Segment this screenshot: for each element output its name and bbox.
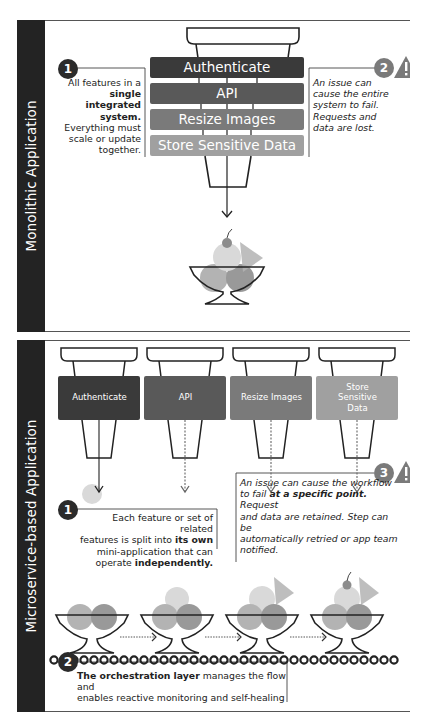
service-authenticate: Authenticate <box>59 376 140 419</box>
conveyor-roller <box>280 656 287 663</box>
conveyor-roller <box>300 656 307 663</box>
scoop-1 <box>237 604 263 630</box>
scoop-2 <box>261 604 287 630</box>
conveyor-roller <box>120 656 127 663</box>
layer-authenticate: Authenticate <box>150 59 304 75</box>
conveyor-roller <box>210 656 217 663</box>
cherry <box>343 581 352 590</box>
conveyor-roller <box>320 656 327 663</box>
funnel-rim-api <box>147 348 223 361</box>
conveyor-roller <box>290 656 297 663</box>
conveyor-roller <box>360 656 367 663</box>
scoop-1 <box>152 604 178 630</box>
funnel-spout <box>205 156 251 187</box>
scoop-1 <box>322 604 348 630</box>
funnel-neck-left-authenticate <box>73 361 75 377</box>
conveyor-roller <box>370 656 377 663</box>
wafer <box>274 577 294 605</box>
conveyor-roller <box>190 656 197 663</box>
ms-callout-2-number: 2 <box>58 652 78 672</box>
funnel-rim-authenticate <box>61 348 137 361</box>
ms-callout-2-text: The orchestration layer manages the flow… <box>77 670 287 704</box>
service-api: API <box>145 376 226 419</box>
conveyor-roller <box>150 656 157 663</box>
scoop-2 <box>346 604 372 630</box>
funnel-rim-resize-images <box>233 348 309 361</box>
conveyor-roller <box>180 656 187 663</box>
conveyor-roller <box>110 656 117 663</box>
conveyor-roller <box>130 656 137 663</box>
funnel-neck-right <box>288 44 290 58</box>
conveyor-roller <box>140 656 147 663</box>
callout-2-number: 2 <box>374 58 394 78</box>
conveyor-roller <box>310 656 317 663</box>
funnel-neck-left <box>196 44 198 58</box>
conveyor-roller <box>170 656 177 663</box>
service-resize-images: Resize Images <box>231 376 312 419</box>
warning-icon-bar <box>405 62 407 71</box>
conveyor-roller <box>240 656 247 663</box>
conveyor-roller <box>50 656 57 663</box>
ms-callout-1-text: Each feature or set of related features … <box>77 512 213 568</box>
conveyor-roller <box>390 656 397 663</box>
microservice-section: Microservice-based Application 1 3 2 Aut… <box>17 340 410 712</box>
funnel-neck-right-authenticate <box>123 361 125 377</box>
service-store-sensitive-data: Store Sensitive Data <box>317 376 398 419</box>
conveyor-roller <box>230 656 237 663</box>
funnel-rim <box>187 28 299 44</box>
monolithic-callout-2-text: An issue can cause the entire system to … <box>313 77 408 133</box>
conveyor-roller <box>330 656 337 663</box>
conveyor-roller <box>160 656 167 663</box>
ms-callout-3-text: An issue can cause the workflow to fail … <box>240 477 400 555</box>
sundae-complete <box>190 229 264 304</box>
conveyor-roller <box>340 656 347 663</box>
monolithic-section: Monolithic Application <box>17 20 410 332</box>
conveyor-roller <box>350 656 357 663</box>
conveyor-roller <box>100 656 107 663</box>
layer-store-sensitive-data: Store Sensitive Data <box>150 137 304 153</box>
conveyor-roller <box>380 656 387 663</box>
warning-icon-dot <box>405 478 407 480</box>
warning-icon-bar <box>405 467 407 476</box>
funnel-neck-right-api <box>209 361 211 377</box>
ms-callout-1-number: 1 <box>58 500 78 520</box>
scoop-2 <box>91 604 117 630</box>
scoop-2 <box>176 604 202 630</box>
warning-icon <box>394 56 410 78</box>
conveyor-roller <box>220 656 227 663</box>
conveyor-roller <box>250 656 257 663</box>
layer-resize-images: Resize Images <box>150 111 304 127</box>
callout-1-number: 1 <box>58 59 78 79</box>
conveyor-roller <box>260 656 267 663</box>
conveyor-roller <box>90 656 97 663</box>
conveyor-roller <box>200 656 207 663</box>
cherry-stem <box>347 572 351 581</box>
conveyor-roller <box>270 656 277 663</box>
conveyor-roller <box>80 656 87 663</box>
warning-icon-dot <box>405 73 407 75</box>
wafer <box>359 577 379 605</box>
funnel-neck-left-store-sensitive-data <box>331 361 333 377</box>
funnel-neck-right-store-sensitive-data <box>381 361 383 377</box>
layer-api: API <box>150 85 304 101</box>
monolithic-callout-1-text: All features in a single integrated syst… <box>57 77 141 155</box>
funnel-rim-store-sensitive-data <box>319 348 395 361</box>
funnel-neck-left-resize-images <box>245 361 247 377</box>
funnel-neck-left-api <box>159 361 161 377</box>
scoop-1 <box>67 604 93 630</box>
funnel-neck-right-resize-images <box>295 361 297 377</box>
